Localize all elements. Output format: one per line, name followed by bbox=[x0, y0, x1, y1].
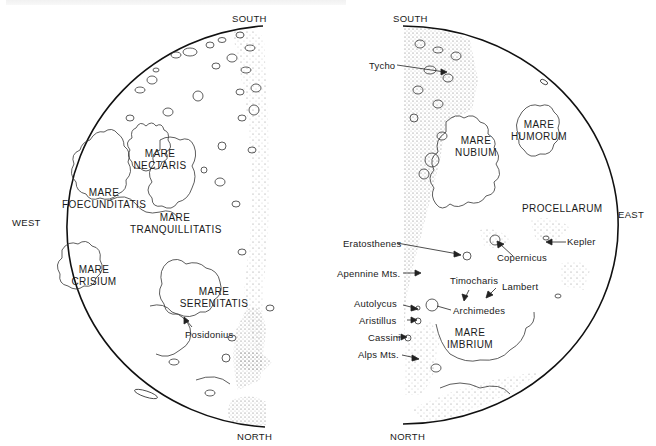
mare-name: CRISIUM bbox=[69, 276, 119, 288]
left-north-label: NORTH bbox=[237, 431, 272, 442]
mare-word: MARE bbox=[506, 119, 572, 131]
mare-word: MARE bbox=[178, 286, 250, 298]
copernicus-label: Copernicus bbox=[497, 252, 547, 263]
mare-serenitatis-label: MARE SERENITATIS bbox=[178, 286, 250, 310]
left-terminator-stipple bbox=[228, 30, 272, 425]
eratosthenes-label: Eratosthenes bbox=[343, 238, 401, 249]
mare-name: TRANQUILLITATIS bbox=[130, 224, 220, 236]
right-south-label: SOUTH bbox=[393, 13, 428, 24]
mare-word: MARE bbox=[450, 135, 502, 147]
mare-name: SERENITATIS bbox=[178, 298, 250, 310]
cassini-label: Cassini bbox=[368, 332, 401, 343]
timocharis-label: Timocharis bbox=[450, 275, 498, 286]
alps-mts-label: Alps Mts. bbox=[358, 349, 399, 360]
right-east-label: EAST bbox=[618, 209, 644, 220]
mare-name: FOECUNDITATIS bbox=[62, 199, 146, 211]
right-terminator-stipple bbox=[404, 28, 590, 424]
mare-humorum-label: MARE HUMORUM bbox=[506, 119, 572, 143]
mare-crisium-label: MARE CRISIUM bbox=[69, 264, 119, 288]
moon-map-drawing bbox=[0, 0, 656, 446]
mare-nectaris-label: MARE NECTARIS bbox=[130, 148, 190, 172]
mare-word: MARE bbox=[62, 187, 146, 199]
archimedes-label: Archimedes bbox=[453, 305, 505, 316]
lambert-label: Lambert bbox=[502, 281, 538, 292]
mare-imbrium-label: MARE IMBRIUM bbox=[440, 327, 500, 351]
autolycus-label: Autolycus bbox=[354, 298, 397, 309]
mare-name: NUBIUM bbox=[450, 147, 502, 159]
mare-foecunditatis-label: MARE FOECUNDITATIS bbox=[62, 187, 146, 211]
mare-name: IMBRIUM bbox=[440, 339, 500, 351]
right-north-label: NORTH bbox=[390, 431, 425, 442]
mare-word: MARE bbox=[69, 264, 119, 276]
left-west-label: WEST bbox=[12, 217, 41, 228]
mare-tranquillitatis-label: MARE TRANQUILLITATIS bbox=[130, 212, 220, 236]
mare-word: MARE bbox=[440, 327, 500, 339]
mare-word: MARE bbox=[130, 148, 190, 160]
mare-nubium-label: MARE NUBIUM bbox=[450, 135, 502, 159]
mare-name: NECTARIS bbox=[130, 160, 190, 172]
kepler-label: Kepler bbox=[567, 236, 596, 247]
mare-name: HUMORUM bbox=[506, 131, 572, 143]
left-south-label: SOUTH bbox=[232, 13, 267, 24]
aristillus-label: Aristillus bbox=[359, 315, 396, 326]
posidonius-label: Posidonius bbox=[185, 329, 233, 340]
moon-map-figure: SOUTH NORTH WEST MARE NECTARIS MARE FOEC… bbox=[0, 0, 656, 446]
oceanus-procellarum-label: PROCELLARUM bbox=[522, 203, 603, 215]
mare-word: MARE bbox=[130, 212, 220, 224]
tycho-label: Tycho bbox=[369, 60, 395, 71]
apennine-mts-label: Apennine Mts. bbox=[337, 268, 400, 279]
left-leader-lines bbox=[184, 317, 192, 327]
